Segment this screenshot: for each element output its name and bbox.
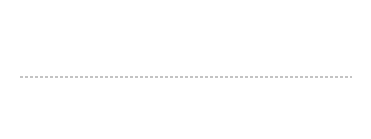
diagram <box>0 0 371 139</box>
diagram-canvas <box>0 0 371 139</box>
